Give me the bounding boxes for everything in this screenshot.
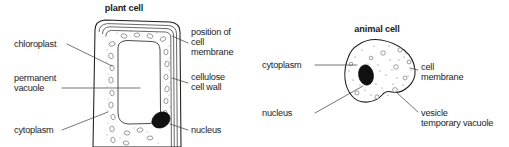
- label-cell-membrane-line3: membrane: [191, 47, 233, 57]
- label-permanent-vacuole-line1: permanent: [14, 73, 57, 83]
- label-animal-cytoplasm: cytoplasm: [262, 60, 302, 70]
- animal-cell-title: animal cell: [354, 24, 399, 34]
- label-animal-cell-membrane-line1: cell: [421, 62, 434, 72]
- vesicle-target: [393, 88, 398, 93]
- plant-cell-group: plant cell: [14, 3, 233, 147]
- label-temporary-vacuole-line2: temporary vacuole: [421, 118, 493, 128]
- plant-cell-title: plant cell: [105, 3, 143, 13]
- animal-cell-group: animal cell: [262, 24, 493, 128]
- label-permanent-vacuole-line2: vacuole: [14, 83, 44, 93]
- permanent-vacuole-shape: [118, 41, 161, 125]
- label-animal-cell-membrane-line2: membrane: [421, 72, 463, 82]
- label-chloroplast: chloroplast: [14, 39, 57, 49]
- label-cell-membrane-line2: cell: [191, 37, 204, 47]
- label-animal-nucleus: nucleus: [262, 108, 293, 118]
- label-cellulose-line2: cell wall: [191, 82, 222, 92]
- label-vesicle-line1: vesicle: [421, 108, 448, 118]
- cell-diagram-figure: plant cell: [0, 0, 509, 147]
- label-cell-membrane-line1: position of: [191, 27, 231, 37]
- label-plant-nucleus: nucleus: [191, 125, 222, 135]
- leader-vesicle: [396, 92, 418, 112]
- label-plant-cytoplasm: cytoplasm: [14, 125, 54, 135]
- label-cellulose-line1: cellulose: [191, 72, 225, 82]
